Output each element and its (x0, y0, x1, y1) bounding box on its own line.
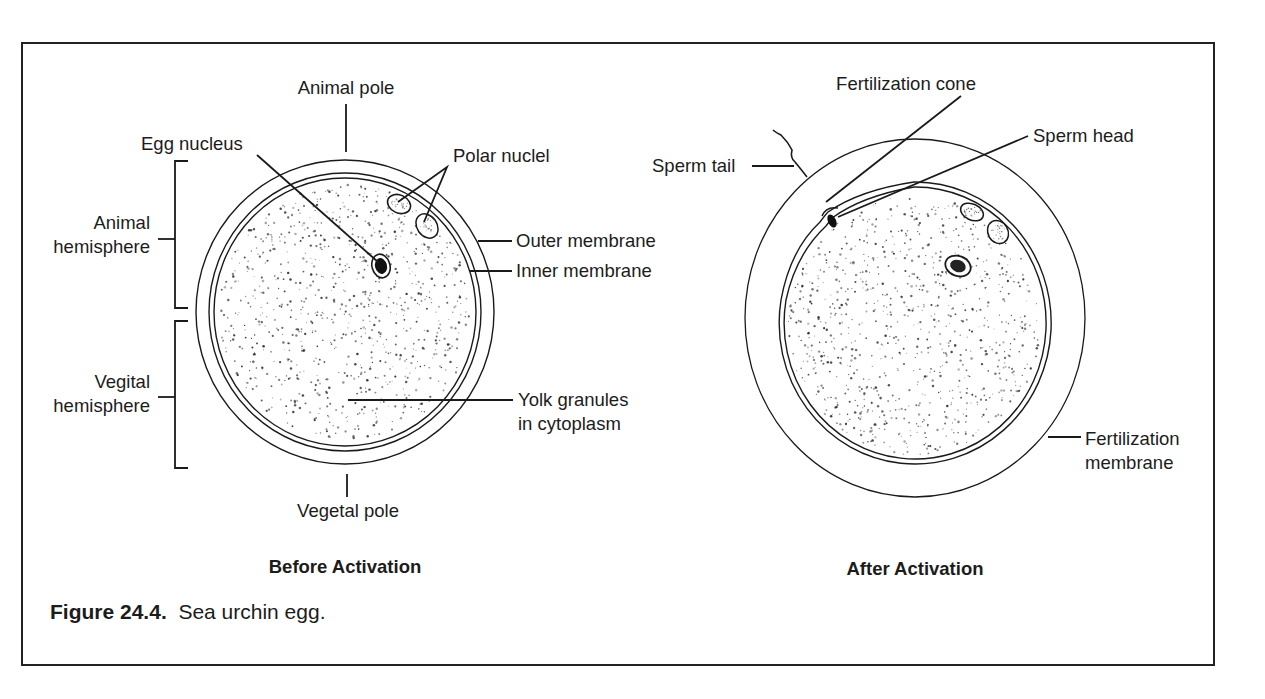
label-outer-membrane: Outer membrane (516, 230, 656, 252)
panel-title-before: Before Activation (269, 556, 421, 578)
label-animal-pole: Animal pole (298, 77, 395, 99)
label-yolk-granules-line1: Yolk granules (518, 389, 628, 411)
label-animal-hemisphere-line2: hemisphere (53, 236, 150, 258)
label-fertilization-cone: Fertilization cone (836, 73, 976, 95)
diagram-canvas (0, 0, 1265, 699)
label-vegital-hemisphere-line1: Vegital (94, 371, 150, 393)
egg-before-activation (196, 160, 494, 464)
label-animal-hemisphere-line1: Animal (93, 212, 150, 234)
label-vegital-hemisphere-line2: hemisphere (53, 395, 150, 417)
figure-caption: Figure 24.4. Sea urchin egg. (50, 600, 326, 624)
label-yolk-granules-line2: in cytoplasm (518, 413, 621, 435)
label-sperm-head: Sperm head (1033, 125, 1134, 147)
label-vegetal-pole: Vegetal pole (297, 500, 399, 522)
label-polar-nuclei: Polar nuclel (453, 145, 550, 167)
figure-caption-text: Sea urchin egg. (178, 600, 325, 623)
fertilization-membrane-shape (745, 139, 1085, 497)
figure-number: Figure 24.4. (50, 600, 167, 623)
label-inner-membrane: Inner membrane (516, 260, 652, 282)
polar-body-right-1 (958, 200, 987, 225)
panel-title-after: After Activation (846, 558, 983, 580)
label-fertilization-membrane-line2: membrane (1085, 452, 1173, 474)
inner-membrane-right (779, 182, 1051, 464)
label-sperm-tail: Sperm tail (652, 155, 735, 177)
label-fertilization-membrane-line1: Fertilization (1085, 428, 1180, 450)
label-egg-nucleus: Egg nucleus (141, 133, 243, 155)
sperm-tail-shape (773, 130, 807, 177)
